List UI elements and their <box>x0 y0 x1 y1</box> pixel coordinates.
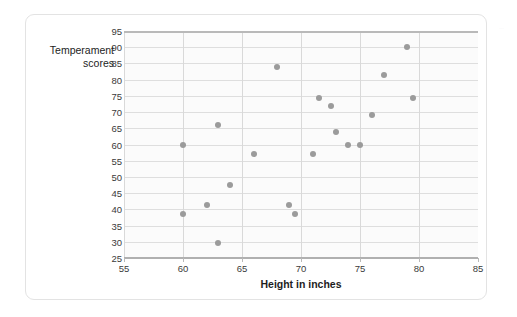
x-tick-label-60: 60 <box>168 263 198 274</box>
clipped-body-text: … <box>499 22 517 32</box>
y-tick-label-90: 90 <box>82 42 122 53</box>
x-tick-label-65: 65 <box>227 263 257 274</box>
data-point <box>381 72 387 78</box>
x-tick-label-85: 85 <box>463 263 493 274</box>
x-tick-mark-70 <box>301 258 302 262</box>
axis-top-rule <box>124 31 478 33</box>
x-tick-label-70: 70 <box>286 263 316 274</box>
y-tick-label-85: 85 <box>82 58 122 69</box>
x-tick-label-80: 80 <box>404 263 434 274</box>
data-point <box>180 142 186 148</box>
gridline-x-65 <box>242 31 243 258</box>
data-point <box>310 151 316 157</box>
data-point <box>316 95 322 101</box>
y-tick-label-25: 25 <box>82 253 122 264</box>
x-tick-label-55: 55 <box>109 263 139 274</box>
x-tick-label-75: 75 <box>345 263 375 274</box>
x-axis-label: Height in inches <box>124 278 478 290</box>
data-point <box>328 103 334 109</box>
y-tick-label-80: 80 <box>82 74 122 85</box>
y-tick-label-65: 65 <box>82 123 122 134</box>
data-point <box>333 129 339 135</box>
scatter-plot-area: 253035404550556065707580859095 556065707… <box>124 31 478 258</box>
x-tick-mark-60 <box>183 258 184 262</box>
y-tick-label-60: 60 <box>82 139 122 150</box>
gridline-x-80 <box>419 31 420 258</box>
figure-container: … Temperament scores 2530354045505560657… <box>0 0 517 317</box>
y-tick-label-95: 95 <box>82 26 122 37</box>
y-tick-label-70: 70 <box>82 107 122 118</box>
y-tick-label-35: 35 <box>82 220 122 231</box>
y-tick-label-30: 30 <box>82 236 122 247</box>
x-tick-mark-55 <box>124 258 125 262</box>
data-point <box>357 142 363 148</box>
x-tick-mark-65 <box>242 258 243 262</box>
data-point <box>286 202 292 208</box>
y-tick-label-50: 50 <box>82 171 122 182</box>
y-tick-label-75: 75 <box>82 90 122 101</box>
data-point <box>251 151 257 157</box>
x-tick-mark-85 <box>478 258 479 262</box>
data-point <box>345 142 351 148</box>
data-point <box>204 202 210 208</box>
y-tick-label-40: 40 <box>82 204 122 215</box>
gridline-x-55 <box>124 31 125 258</box>
gridline-x-70 <box>301 31 302 258</box>
data-point <box>410 95 416 101</box>
y-tick-label-55: 55 <box>82 155 122 166</box>
y-tick-label-45: 45 <box>82 188 122 199</box>
x-tick-mark-80 <box>419 258 420 262</box>
x-tick-mark-75 <box>360 258 361 262</box>
